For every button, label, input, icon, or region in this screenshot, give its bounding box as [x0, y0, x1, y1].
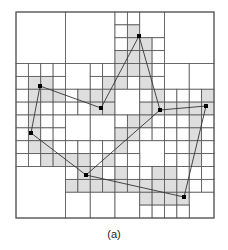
cell — [177, 115, 189, 128]
cell — [41, 64, 53, 77]
shaded-cell — [127, 64, 139, 77]
cell — [28, 154, 40, 167]
cell — [140, 89, 152, 102]
cell — [16, 154, 28, 167]
cell — [115, 12, 127, 25]
cell — [177, 154, 189, 167]
shaded-cell — [189, 128, 201, 141]
cell — [41, 115, 53, 128]
cell — [127, 12, 139, 25]
cell — [16, 89, 28, 102]
cell — [16, 128, 28, 141]
point-P5 — [204, 104, 208, 108]
figure-caption: (a) — [0, 228, 228, 240]
cell — [115, 38, 127, 51]
cell — [177, 89, 189, 102]
point-P1 — [137, 34, 141, 38]
point-P4 — [158, 108, 162, 112]
cell — [152, 51, 164, 64]
shaded-cell — [103, 102, 115, 115]
cell — [53, 64, 65, 77]
cell — [41, 102, 53, 115]
cell — [90, 115, 115, 141]
cell — [177, 141, 189, 154]
shaded-cell — [127, 115, 139, 128]
cell — [66, 102, 78, 115]
cell — [28, 64, 40, 77]
cell — [103, 64, 115, 77]
cell — [165, 115, 177, 128]
cell — [16, 76, 28, 89]
cell — [127, 76, 139, 89]
shaded-cell — [152, 167, 164, 180]
shaded-cell — [115, 179, 127, 192]
shaded-cell — [28, 115, 40, 128]
cell — [66, 192, 91, 218]
cell — [165, 141, 177, 154]
cell — [90, 64, 102, 77]
cell — [127, 154, 139, 167]
cell — [202, 179, 214, 192]
cell — [165, 128, 177, 141]
cell — [189, 89, 201, 102]
shaded-cell — [41, 141, 53, 154]
cell — [53, 76, 65, 89]
cell — [16, 167, 66, 219]
cell — [177, 128, 189, 141]
shaded-cell — [152, 89, 164, 102]
cell — [165, 154, 177, 167]
cell — [152, 128, 164, 141]
cell — [103, 167, 115, 180]
cell — [90, 76, 102, 89]
cell — [90, 141, 102, 154]
shaded-cell — [189, 102, 201, 115]
cell — [16, 141, 28, 154]
point-P3 — [99, 106, 103, 110]
cell — [115, 115, 127, 128]
shaded-cell — [41, 154, 53, 167]
shaded-cell — [115, 128, 127, 141]
cell — [78, 102, 90, 115]
cell — [140, 167, 152, 180]
cell — [115, 154, 127, 167]
shaded-cell — [165, 179, 177, 192]
shaded-cell — [202, 89, 214, 102]
shaded-cell — [140, 192, 152, 205]
cell — [16, 102, 28, 115]
cell — [66, 141, 78, 154]
cell — [152, 115, 164, 128]
shaded-cell — [90, 179, 102, 192]
shaded-cell — [189, 115, 201, 128]
cell — [165, 64, 190, 90]
cell — [115, 89, 140, 115]
cell — [189, 192, 214, 218]
shaded-cell — [140, 76, 152, 89]
shaded-cell — [127, 38, 139, 51]
cell — [177, 205, 189, 218]
shaded-cell — [103, 154, 115, 167]
quadtree-diagram — [0, 0, 228, 225]
shaded-cell — [28, 141, 40, 154]
point-P6 — [29, 131, 33, 135]
cell — [127, 141, 139, 154]
cell — [165, 12, 215, 64]
shaded-cell — [78, 179, 90, 192]
shaded-cell — [140, 102, 152, 115]
cell — [41, 128, 53, 141]
point-P8 — [182, 195, 186, 199]
shaded-cell — [103, 89, 115, 102]
cell — [115, 192, 140, 218]
shaded-cell — [189, 141, 201, 154]
cell — [78, 141, 90, 154]
cell — [127, 167, 139, 180]
cell — [177, 167, 189, 180]
cell — [202, 141, 214, 154]
cell — [66, 64, 91, 90]
shaded-cell — [78, 154, 90, 167]
cell — [90, 192, 115, 218]
cell — [165, 89, 177, 102]
point-P2 — [38, 84, 42, 88]
shaded-cell — [115, 167, 127, 180]
shaded-cell — [66, 179, 78, 192]
cell — [66, 167, 78, 180]
